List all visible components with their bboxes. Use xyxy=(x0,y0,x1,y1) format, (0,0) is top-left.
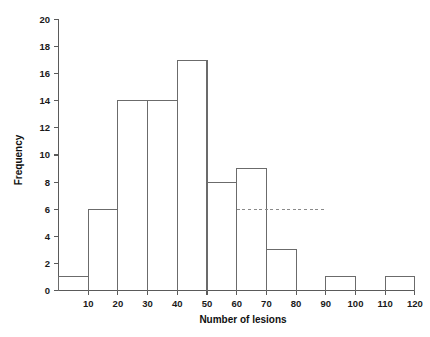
histogram-bar xyxy=(88,209,118,290)
y-axis-title: Frequency xyxy=(13,134,24,185)
y-tick-label: 14 xyxy=(39,95,50,106)
histogram-bar xyxy=(59,277,89,291)
y-tick-label: 4 xyxy=(45,231,51,242)
x-tick-label: 10 xyxy=(83,298,94,309)
y-axis-tick-marks xyxy=(54,20,59,291)
y-tick-label: 6 xyxy=(45,204,50,215)
x-axis-tick-labels: 102030405060708090100110120 xyxy=(83,298,423,309)
x-tick-label: 70 xyxy=(261,298,272,309)
x-tick-label: 100 xyxy=(348,298,364,309)
x-tick-label: 50 xyxy=(202,298,213,309)
y-tick-label: 0 xyxy=(45,285,50,296)
x-tick-label: 80 xyxy=(291,298,302,309)
histogram-bar xyxy=(237,169,267,291)
histogram-bars xyxy=(59,60,415,290)
x-tick-label: 90 xyxy=(321,298,332,309)
x-axis-tick-marks xyxy=(88,291,415,296)
y-axis-tick-labels: 02468101214161820 xyxy=(39,14,50,296)
y-tick-label: 2 xyxy=(45,258,50,269)
x-axis-title: Number of lesions xyxy=(199,314,287,325)
x-tick-label: 20 xyxy=(113,298,124,309)
x-tick-label: 60 xyxy=(231,298,242,309)
histogram-bar xyxy=(207,182,237,290)
x-tick-label: 120 xyxy=(407,298,423,309)
y-tick-label: 16 xyxy=(39,68,50,79)
y-tick-label: 12 xyxy=(39,122,50,133)
y-tick-label: 10 xyxy=(39,149,50,160)
histogram-figure: 02468101214161820 1020304050607080901001… xyxy=(0,0,430,337)
y-tick-label: 20 xyxy=(39,14,50,25)
histogram-bar xyxy=(266,250,296,291)
histogram-bar xyxy=(118,101,148,291)
histogram-bar xyxy=(385,277,415,291)
x-tick-label: 40 xyxy=(172,298,183,309)
histogram-bar xyxy=(177,60,207,290)
y-tick-label: 8 xyxy=(45,177,50,188)
x-tick-label: 30 xyxy=(142,298,153,309)
x-tick-label: 110 xyxy=(378,298,393,309)
histogram-plot: 02468101214161820 1020304050607080901001… xyxy=(0,0,430,337)
histogram-bar xyxy=(326,277,356,291)
y-tick-label: 18 xyxy=(39,41,50,52)
histogram-bar xyxy=(148,101,178,291)
